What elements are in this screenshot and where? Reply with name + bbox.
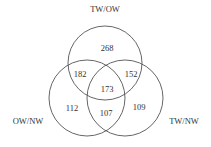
region-right-only: 109	[133, 102, 146, 112]
region-top-right: 152	[125, 69, 138, 79]
set-label-tw-nw: TW/NW	[169, 116, 199, 126]
region-left-right: 107	[100, 108, 113, 118]
region-left-only: 112	[66, 103, 78, 113]
region-all-three: 173	[101, 84, 114, 94]
venn-diagram: TW/OW OW/NW TW/NW 268 182 152 173 112 10…	[0, 0, 211, 147]
set-label-tw-ow: TW/OW	[90, 4, 120, 14]
region-top-left: 182	[74, 69, 87, 79]
region-top-only: 268	[101, 43, 114, 53]
set-label-ow-nw: OW/NW	[13, 116, 44, 126]
